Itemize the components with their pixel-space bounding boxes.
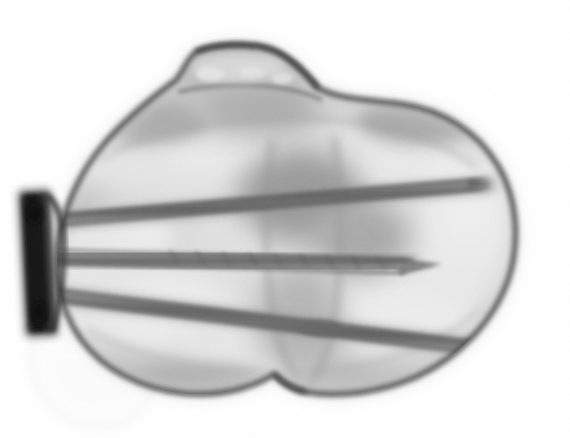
edge-softening [0, 0, 570, 438]
xray-image [0, 0, 570, 438]
radiograph-viewport: X-ray Axial / skyline view of distal fem… [0, 0, 570, 438]
